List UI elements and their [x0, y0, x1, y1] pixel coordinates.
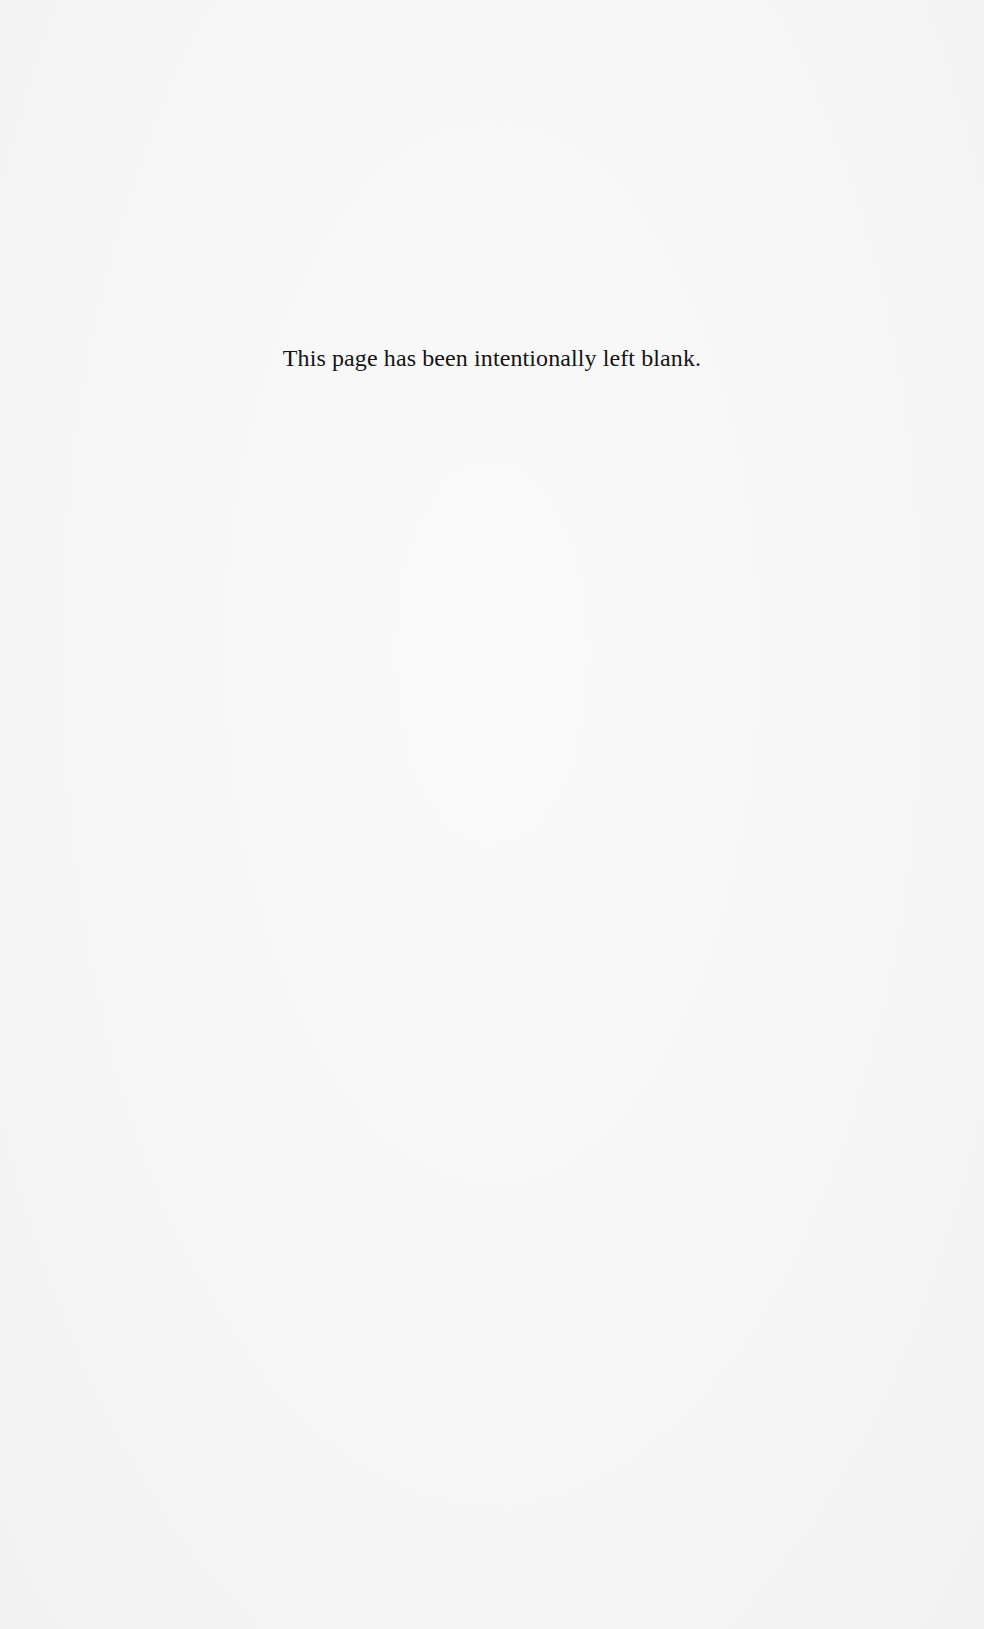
blank-page-notice: This page has been intentionally left bl… [0, 342, 984, 374]
blank-page: This page has been intentionally left bl… [0, 0, 984, 1629]
